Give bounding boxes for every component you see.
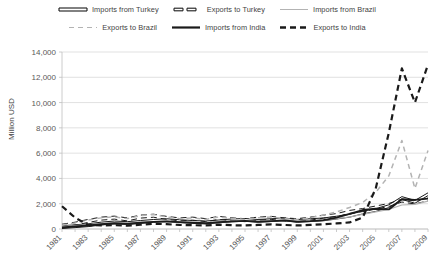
plot-area: Million USD 02,0004,0006,0008,00010,0001…: [0, 44, 434, 268]
x-tick-label: 1985: [97, 233, 116, 252]
y-tick-label: 4,000: [36, 174, 57, 183]
y-tick-label: 8,000: [36, 124, 57, 133]
x-tick-label: 1981: [44, 233, 63, 252]
legend-item-exports-to-brazil[interactable]: Exports to Brazil: [68, 23, 157, 32]
y-tick-label: 12,000: [32, 73, 57, 82]
legend-label: Imports from Brazil: [313, 5, 376, 14]
series-exports-to-india: [62, 65, 428, 226]
legend-swatch-thick-dash-hollow: [173, 5, 203, 14]
legend-item-exports-to-india[interactable]: Exports to India: [279, 23, 365, 32]
series-imports-from-india: [62, 199, 428, 228]
y-tick-label: 14,000: [32, 48, 57, 57]
legend-item-exports-to-turkey[interactable]: Exports to Turkey: [173, 5, 265, 14]
y-axis-title: Million USD: [7, 98, 16, 140]
x-tick-label: 1997: [254, 233, 273, 252]
series-line: [62, 65, 428, 226]
legend-item-imports-from-brazil[interactable]: Imports from Brazil: [279, 5, 376, 14]
chart-legend: Imports from TurkeyExports to TurkeyImpo…: [0, 0, 434, 36]
y-tick-label: 6,000: [36, 149, 57, 158]
legend-row-1: Imports from TurkeyExports to TurkeyImpo…: [0, 0, 434, 18]
y-axis-title-group: Million USD: [7, 98, 16, 140]
legend-swatch-thin-solid: [279, 5, 309, 14]
x-tick-label: 1991: [175, 233, 194, 252]
x-tick-label: 1999: [280, 233, 299, 252]
legend-item-imports-from-turkey[interactable]: Imports from Turkey: [58, 5, 159, 14]
series-line: [62, 199, 428, 228]
legend-label: Imports from India: [205, 23, 265, 32]
x-tick-label: 1989: [149, 233, 168, 252]
legend-item-imports-from-india[interactable]: Imports from India: [171, 23, 265, 32]
y-tick-label: 10,000: [32, 99, 57, 108]
legend-label: Exports to Turkey: [207, 5, 265, 14]
legend-label: Exports to Brazil: [102, 23, 157, 32]
y-axis-ticks: 02,0004,0006,0008,00010,00012,00014,000: [32, 48, 62, 234]
x-tick-label: 2005: [358, 233, 377, 252]
x-tick-label: 2007: [384, 233, 403, 252]
x-tick-label: 1987: [123, 233, 142, 252]
y-tick-label: 0: [52, 225, 57, 234]
x-tick-label: 1995: [227, 233, 246, 252]
legend-label: Imports from Turkey: [92, 5, 159, 14]
legend-row-2: Exports to BrazilImports from IndiaExpor…: [0, 18, 434, 36]
x-tick-label: 2001: [306, 233, 325, 252]
y-tick-label: 2,000: [36, 200, 57, 209]
legend-swatch-thin-dash: [68, 23, 98, 32]
x-tick-label: 1983: [71, 233, 90, 252]
legend-swatch-thick-solid: [171, 23, 201, 32]
legend-swatch-double-band: [58, 5, 88, 14]
gridlines: [62, 52, 428, 229]
x-axis-ticks: [62, 229, 428, 232]
legend-label: Exports to India: [313, 23, 365, 32]
x-tick-label: 2003: [332, 233, 351, 252]
line-chart-svg: Million USD 02,0004,0006,0008,00010,0001…: [0, 44, 434, 268]
x-axis-labels: 1981198319851987198919911993199519971999…: [44, 233, 429, 252]
legend-swatch-thick-dash: [279, 23, 309, 32]
x-tick-label: 1993: [201, 233, 220, 252]
x-tick-label: 2009: [410, 233, 429, 252]
chart-page: Imports from TurkeyExports to TurkeyImpo…: [0, 0, 434, 268]
axis-lines: [62, 52, 428, 229]
